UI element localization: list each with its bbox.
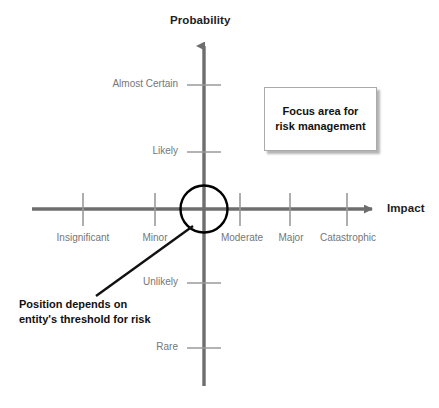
y-tick-label-almost-certain: Almost Certain: [50, 78, 178, 89]
risk-matrix-diagram: Probability Impact Almost Certain Likely…: [0, 0, 439, 408]
y-tick-label-unlikely: Unlikely: [50, 276, 178, 287]
x-tick-label-minor: Minor: [115, 232, 195, 243]
y-tick-label-rare: Rare: [50, 341, 178, 352]
threshold-annotation-text: Position depends on entity's threshold f…: [19, 297, 199, 327]
y-axis-title: Probability: [170, 14, 231, 26]
x-tick-label-catastrophic: Catastrophic: [289, 232, 407, 243]
y-tick-label-likely: Likely: [50, 145, 178, 156]
focus-area-callout-text: Focus area for risk management: [275, 104, 365, 134]
x-axis-title: Impact: [387, 202, 425, 214]
focus-area-callout: Focus area for risk management: [264, 87, 377, 151]
